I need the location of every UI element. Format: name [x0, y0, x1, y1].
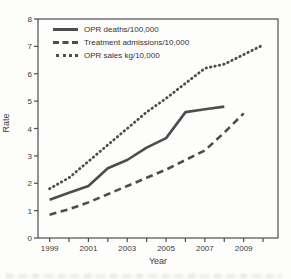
legend-label: OPR sales kg/10,000 [84, 51, 160, 60]
y-tick-label: 2 [28, 179, 33, 188]
x-tick-label: 1999 [41, 244, 59, 253]
cropped-caption-artifact [6, 274, 282, 278]
legend-item-opr-deaths: OPR deaths/100,000 [53, 25, 189, 33]
y-tick-label: 1 [28, 207, 33, 216]
y-tick-label: 5 [28, 97, 33, 106]
y-tick-label: 7 [28, 42, 33, 51]
solid-line-sample-icon [53, 28, 78, 31]
dotted-line-sample-icon [56, 54, 78, 57]
y-tick-label: 3 [28, 152, 33, 161]
x-tick-label: 2005 [157, 244, 175, 253]
legend-label: OPR deaths/100,000 [84, 25, 159, 34]
y-tick-label: 4 [28, 125, 33, 134]
y-tick-label: 6 [28, 70, 33, 79]
series-line-dotted [50, 45, 264, 189]
x-axis-title: Year [38, 256, 278, 266]
legend-label: Treatment admissions/10,000 [84, 38, 189, 47]
legend-item-treatment-admissions: Treatment admissions/10,000 [53, 38, 189, 46]
x-tick-label: 2007 [196, 244, 214, 253]
x-tick-label: 2003 [118, 244, 136, 253]
x-tick-label: 2009 [235, 244, 253, 253]
chart-legend: OPR deaths/100,000 Treatment admissions/… [53, 25, 189, 59]
figure-container: 012345678199920012003200520072009 OPR de… [0, 0, 291, 279]
dashed-line-sample-icon [53, 41, 78, 44]
y-tick-label: 8 [28, 15, 33, 24]
y-tick-label: 0 [28, 234, 33, 243]
y-axis-title: Rate [1, 103, 11, 143]
legend-item-opr-sales: OPR sales kg/10,000 [53, 51, 189, 59]
series-line-dashed [50, 113, 244, 214]
x-tick-label: 2001 [80, 244, 98, 253]
